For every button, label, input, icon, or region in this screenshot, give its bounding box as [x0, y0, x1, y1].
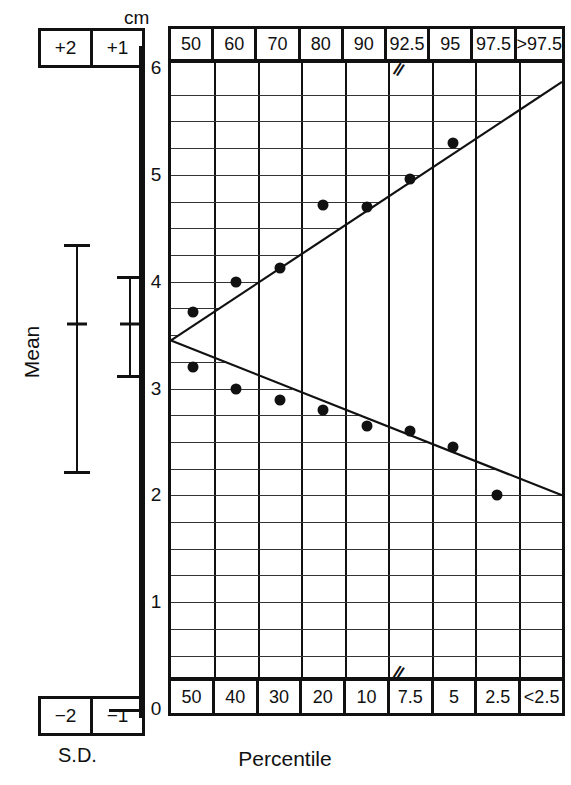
- top-percentile-cell-80: 80: [301, 29, 344, 59]
- percentile-axis-label: Percentile: [238, 748, 331, 769]
- bottom-percentile-cell-2.5: <2.5: [521, 681, 562, 713]
- lower-curve-line: [171, 340, 562, 495]
- bottom-percentile-cell-40: 40: [215, 681, 259, 713]
- data-point-upper: [274, 262, 285, 273]
- data-point-lower: [274, 395, 285, 406]
- top-percentile-cell-97.5: 97.5: [473, 29, 516, 59]
- data-point-upper: [231, 276, 242, 287]
- bottom-percentile-cell-7.5: 7.5: [390, 681, 434, 713]
- data-point-lower: [318, 404, 329, 415]
- bottom-percentile-cell-2.5: 2.5: [477, 681, 521, 713]
- data-point-upper: [448, 137, 459, 148]
- top-percentile-cell-70: 70: [257, 29, 300, 59]
- percentile-curves: [0, 0, 571, 785]
- data-point-upper: [404, 174, 415, 185]
- data-point-lower: [404, 426, 415, 437]
- bottom-percentile-cell-30: 30: [259, 681, 303, 713]
- top-percentile-cell-92.5: 92.5: [387, 29, 430, 59]
- bottom-percentile-cell-20: 20: [302, 681, 346, 713]
- data-point-lower: [361, 420, 372, 431]
- top-percentile-header: 506070809092.59597.5>97.5: [168, 26, 565, 62]
- top-percentile-cell-60: 60: [214, 29, 257, 59]
- top-percentile-cell-97.5: >97.5: [517, 29, 563, 59]
- top-percentile-cell-90: 90: [344, 29, 387, 59]
- data-point-lower: [187, 362, 198, 373]
- data-point-lower: [448, 442, 459, 453]
- bottom-percentile-header: 50403020107.552.5<2.5: [168, 678, 565, 716]
- figure-root: cm +2+1 −2−1 Mean S.D. 0123456 506070809…: [0, 0, 571, 785]
- data-point-upper: [318, 199, 329, 210]
- data-point-upper: [361, 201, 372, 212]
- bottom-percentile-cell-50: 50: [171, 681, 215, 713]
- data-point-lower: [491, 490, 502, 501]
- data-point-lower: [231, 383, 242, 394]
- top-percentile-cell-95: 95: [430, 29, 473, 59]
- data-point-upper: [187, 306, 198, 317]
- bottom-percentile-cell-5: 5: [434, 681, 478, 713]
- bottom-percentile-cell-10: 10: [346, 681, 390, 713]
- top-percentile-cell-50: 50: [171, 29, 214, 59]
